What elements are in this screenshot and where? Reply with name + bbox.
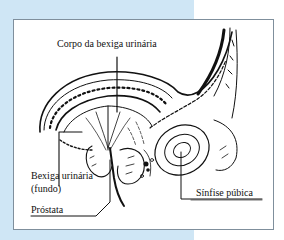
label-bladder-fundus-line2: (fundo) [31,183,61,195]
label-bladder-fundus-line1: Bexiga urinária [31,170,93,182]
label-pubic-symphysis: Sínfise púbica [196,187,253,199]
label-bladder-body: Corpo da bexiga urinária [57,38,157,50]
label-prostate: Próstata [31,204,63,216]
